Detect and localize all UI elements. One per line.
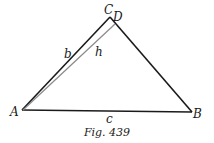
point-label-D: D <box>112 10 123 24</box>
side-label-b: b <box>64 47 72 61</box>
vertex-label-C: C <box>104 3 113 17</box>
vertex-label-B: B <box>192 107 202 121</box>
side-label-c: c <box>106 112 113 126</box>
triangle-diagram: A B C D b h c Fig. 439 <box>0 0 214 143</box>
side-a-CB <box>110 17 192 112</box>
side-b-AC <box>22 17 110 110</box>
altitude-h-AD <box>23 24 115 110</box>
vertex-label-A: A <box>9 105 19 119</box>
figure-caption: Fig. 439 <box>83 126 130 139</box>
figure-canvas: A B C D b h c Fig. 439 <box>0 0 214 143</box>
side-label-h: h <box>95 45 103 59</box>
